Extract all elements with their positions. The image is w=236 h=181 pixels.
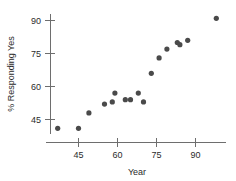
y-axis-title: % Responding Yes	[6, 36, 16, 112]
data-point	[128, 97, 133, 102]
scatter-plot-figure: 90 75 60 45 45 60 75 90 Year % Respondin…	[0, 0, 236, 181]
data-point	[141, 99, 146, 104]
data-point	[164, 47, 169, 52]
x-axis-tick-labels: 45 60 75 90	[73, 150, 200, 160]
data-point	[102, 102, 107, 107]
data-point	[177, 42, 182, 47]
x-tick-label-90: 90	[190, 150, 200, 160]
y-axis-tick-labels: 90 75 60 45	[31, 16, 41, 125]
plot-canvas: 90 75 60 45 45 60 75 90 Year % Respondin…	[0, 0, 236, 181]
data-point	[149, 71, 154, 76]
y-tick-label-90: 90	[31, 16, 41, 26]
data-point	[86, 110, 91, 115]
data-point	[123, 97, 128, 102]
y-tick-label-45: 45	[31, 115, 41, 125]
data-point	[157, 55, 162, 60]
data-point	[55, 126, 60, 131]
data-point	[185, 38, 190, 43]
y-tick-label-75: 75	[31, 49, 41, 59]
y-tick-label-60: 60	[31, 82, 41, 92]
data-point	[110, 99, 115, 104]
x-tick-label-45: 45	[73, 150, 83, 160]
x-axis-title: Year	[128, 167, 146, 177]
data-point	[136, 91, 141, 96]
data-point	[112, 91, 117, 96]
data-point	[214, 16, 219, 21]
data-point	[76, 126, 81, 131]
data-points-group	[55, 16, 219, 131]
x-tick-label-75: 75	[151, 150, 161, 160]
x-tick-label-60: 60	[112, 150, 122, 160]
